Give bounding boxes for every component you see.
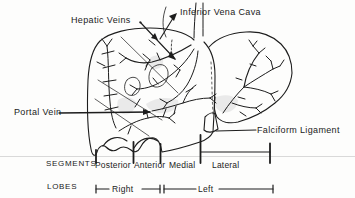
lobe-label-left: Left: [198, 184, 213, 194]
lobe-label-right: Right: [112, 184, 133, 194]
falciform-ligament-leader: [216, 130, 256, 131]
hepatic-vein-branches: [95, 37, 198, 136]
falciform-ligament-label: Falciform Ligament: [257, 125, 340, 135]
segment-label-posterior: Posterior: [95, 160, 131, 170]
lobes-title: LOBES: [47, 182, 77, 191]
segments-title: SEGMENTS: [46, 159, 97, 168]
segment-label-medial: Medial: [169, 160, 195, 170]
portal-vein-label: Portal Vein: [14, 107, 61, 117]
segment-label-lateral: Lateral: [212, 160, 239, 170]
segment-ruler: [96, 135, 270, 163]
hepatic-veins-label: Hepatic Veins: [71, 15, 131, 25]
liver-outline: [87, 28, 292, 155]
inferior-vena-cava-label: Inferior Vena Cava: [180, 7, 261, 17]
portal-vein-leader: [59, 112, 150, 113]
liver-figure: Hepatic Veins Inferior Vena Cava Portal …: [0, 0, 355, 198]
inferior-vena-cava-arrowhead: [169, 13, 177, 21]
segment-label-anterior: Anterior: [134, 160, 165, 170]
